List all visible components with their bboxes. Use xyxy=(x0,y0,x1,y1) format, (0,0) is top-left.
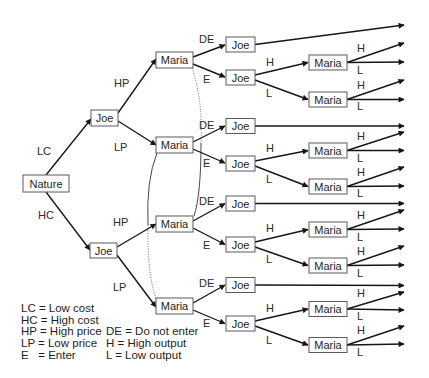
node-nature: Nature xyxy=(23,175,69,192)
label-g0-de: DE xyxy=(199,33,214,45)
edge-g0-de-terminal xyxy=(255,25,404,45)
node-maria-g3-h: Maria xyxy=(309,302,347,317)
edge-g2-h xyxy=(255,230,308,243)
label-hc-hp: HP xyxy=(113,216,128,228)
legend-item: E = Enter xyxy=(21,349,76,361)
label-g1-joe-l: L xyxy=(266,173,272,185)
node-maria-lc-hp: Maria xyxy=(156,52,193,68)
edge-g0-de xyxy=(193,45,225,57)
edge-labels-entry: DE E DE E DE E DE E xyxy=(199,33,214,329)
legend-item: L = Low output xyxy=(106,349,182,361)
game-tree-diagram: Nature Joe Joe Maria Maria Maria Maria J… xyxy=(0,0,429,378)
label-outcome: H xyxy=(357,324,365,336)
node-maria-g2-l: Maria xyxy=(309,258,347,273)
label-outcome: H xyxy=(357,287,365,299)
label-outcome: L xyxy=(357,231,363,243)
node-maria-hc-hp: Maria xyxy=(156,216,193,232)
node-label: Joe xyxy=(96,112,114,124)
label-outcome: H xyxy=(357,79,365,91)
edge-g0-l xyxy=(255,80,308,100)
node-joe-g1-e: Joe xyxy=(226,156,255,171)
node-label: Maria xyxy=(314,94,342,106)
node-label: Maria xyxy=(161,54,189,66)
node-joe-g0-de: Joe xyxy=(226,37,255,52)
edge-g3-h xyxy=(255,309,308,321)
edge-nature-hc xyxy=(46,192,90,250)
legend-item: HC = High cost xyxy=(21,314,99,326)
node-label: Joe xyxy=(232,318,250,330)
label-outcome: L xyxy=(357,64,363,76)
edge-g0-h xyxy=(255,63,308,76)
label-g3-joe-l: L xyxy=(266,334,272,346)
label-g1-e: E xyxy=(203,157,210,169)
node-label: Maria xyxy=(314,339,342,351)
label-lc: LC xyxy=(37,145,51,157)
label-outcome: L xyxy=(357,187,363,199)
node-label: Joe xyxy=(232,72,250,84)
node-label: Maria xyxy=(314,260,342,272)
edge-g1-lh xyxy=(347,167,404,187)
label-outcome: H xyxy=(357,209,365,221)
node-joe-hc: Joe xyxy=(90,243,117,258)
label-outcome: L xyxy=(357,152,363,164)
node-maria-g2-h: Maria xyxy=(309,222,347,237)
edge-labels-maria-output: H L H L H L H L H L H L H L H L xyxy=(357,42,365,358)
edge-g2-ll xyxy=(347,265,404,266)
node-label: Maria xyxy=(161,300,189,312)
node-label: Joe xyxy=(232,39,250,51)
edge-g1-hh xyxy=(347,132,404,151)
node-joe-g3-de: Joe xyxy=(226,278,255,293)
info-set-hp-dotted xyxy=(192,68,201,143)
node-label: Maria xyxy=(314,181,342,193)
group-edges xyxy=(193,25,404,345)
node-joe-g2-e: Joe xyxy=(226,237,255,252)
node-joe-g3-e: Joe xyxy=(226,316,255,331)
node-maria-g0-h: Maria xyxy=(309,55,347,70)
node-label: Nature xyxy=(29,178,62,190)
node-label: Maria xyxy=(314,303,342,315)
node-label: Maria xyxy=(161,218,189,230)
edge-g2-lh xyxy=(347,246,404,266)
label-g3-e: E xyxy=(203,317,210,329)
label-outcome: H xyxy=(357,166,365,178)
label-g3-joe-h: H xyxy=(266,302,274,314)
label-outcome: H xyxy=(357,130,365,142)
edge-g3-hl xyxy=(347,309,404,310)
label-g0-e: E xyxy=(203,73,210,85)
edge-labels-joe-output: H L H L H L H L xyxy=(266,56,274,346)
label-outcome: L xyxy=(357,346,363,358)
label-g1-de: DE xyxy=(199,119,214,131)
node-label: Joe xyxy=(232,279,250,291)
information-sets xyxy=(148,68,202,299)
edge-g1-h xyxy=(255,151,308,162)
node-maria-g1-h: Maria xyxy=(309,143,347,158)
edge-g0-lh xyxy=(347,80,404,100)
node-label: Joe xyxy=(95,245,113,257)
legend-item: DE = Do not enter xyxy=(106,325,199,337)
label-g0-joe-l: L xyxy=(266,87,272,99)
label-g1-joe-h: H xyxy=(266,142,274,154)
label-outcome: L xyxy=(357,267,363,279)
edge-g1-l xyxy=(255,166,308,187)
edge-nature-lc xyxy=(46,119,91,175)
label-outcome: L xyxy=(357,100,363,112)
edge-g0-hh xyxy=(347,43,404,63)
legend-item: HP = High price xyxy=(21,325,102,337)
label-g2-de: DE xyxy=(199,195,214,207)
edge-g1-ll xyxy=(347,186,404,187)
label-lc-lp: LP xyxy=(114,141,127,153)
node-maria-hc-lp: Maria xyxy=(156,298,193,314)
node-joe-lc: Joe xyxy=(91,110,118,126)
node-label: Maria xyxy=(314,224,342,236)
label-hc-lp: LP xyxy=(113,281,126,293)
legend-item: H = High output xyxy=(106,337,187,349)
label-hc: HC xyxy=(38,209,54,221)
node-maria-lc-lp: Maria xyxy=(156,137,193,153)
legend-item: LC = Low cost xyxy=(21,302,95,314)
node-joe-g2-de: Joe xyxy=(226,196,255,211)
edge-g2-l xyxy=(255,247,308,266)
node-label: Joe xyxy=(232,239,250,251)
info-set-lp-solid xyxy=(148,153,157,225)
node-label: Joe xyxy=(232,158,250,170)
edge-g0-hl xyxy=(347,62,404,63)
